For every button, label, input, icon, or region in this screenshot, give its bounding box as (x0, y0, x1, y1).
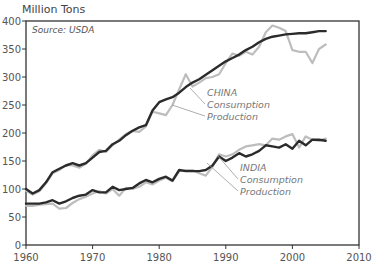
y-tick-label: 400 (2, 16, 21, 27)
y-axis: 050100150200250300350400 (2, 16, 26, 251)
y-tick-label: 0 (15, 240, 21, 251)
y-tick-label: 200 (2, 128, 21, 139)
y-axis-unit-label: Million Tons (22, 3, 85, 16)
x-tick-label: 1990 (213, 252, 238, 263)
china-production-label: Production (207, 111, 258, 122)
y-tick-label: 50 (8, 212, 21, 223)
india-production-label: Production (240, 186, 291, 197)
india-label: INDIA (240, 162, 267, 173)
china-consumption-line (26, 31, 326, 193)
x-tick-label: 1960 (13, 252, 38, 263)
annotations: CHINA Consumption Production INDIA Consu… (172, 87, 303, 197)
china-production-line (26, 26, 326, 195)
y-tick-label: 250 (2, 100, 21, 111)
x-tick-label: 2000 (280, 252, 305, 263)
x-tick-label: 1970 (80, 252, 105, 263)
source-label: Source: USDA (32, 25, 94, 35)
y-tick-label: 100 (2, 184, 21, 195)
x-tick-label: 1980 (146, 252, 171, 263)
china-consumption-label: Consumption (207, 99, 270, 110)
china-production-leader (172, 105, 205, 116)
india-production-line (26, 134, 326, 209)
plot-frame (26, 21, 359, 245)
china-label: CHINA (207, 87, 237, 98)
india-production-leader (207, 163, 238, 191)
y-tick-label: 300 (2, 72, 21, 83)
y-tick-label: 350 (2, 44, 21, 55)
consumption-production-chart: Million Tons Source: USDA 05010015020025… (0, 0, 379, 275)
china-consumption-leader (190, 88, 205, 104)
india-consumption-label: Consumption (240, 174, 303, 185)
y-tick-label: 150 (2, 156, 21, 167)
x-tick-label: 2010 (346, 252, 371, 263)
x-axis: 196019701980199020002010 (13, 245, 371, 263)
